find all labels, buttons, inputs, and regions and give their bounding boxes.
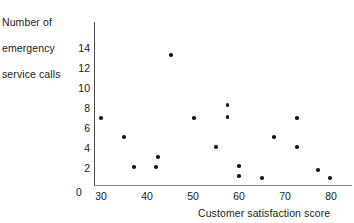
data-point <box>156 155 160 159</box>
data-point <box>328 176 332 180</box>
data-point <box>99 116 103 120</box>
data-point <box>122 135 126 139</box>
data-point <box>154 165 158 169</box>
x-tick-label-60: 60 <box>224 191 254 202</box>
x-tick-label-80: 80 <box>316 191 346 202</box>
x-tick-label-40: 40 <box>132 191 162 202</box>
data-point <box>237 164 241 168</box>
scatter-chart: Number of emergency service calls 246810… <box>0 0 354 223</box>
x-axis-title: Customer satisfaction score <box>198 207 330 220</box>
data-point <box>226 103 230 107</box>
data-point <box>214 145 218 149</box>
data-point <box>295 145 299 149</box>
data-point <box>132 165 136 169</box>
x-tick-label-30: 30 <box>86 191 116 202</box>
x-tick-label-70: 70 <box>270 191 300 202</box>
data-point <box>295 116 299 120</box>
data-point <box>260 176 264 180</box>
x-axis-tick-labels: 304050607080 <box>0 0 354 223</box>
data-point <box>237 174 241 178</box>
data-point <box>226 115 230 119</box>
data-point <box>192 116 196 120</box>
origin-tick-label: 0 <box>76 187 82 198</box>
data-point <box>169 53 173 57</box>
x-tick-label-50: 50 <box>178 191 208 202</box>
data-point <box>316 168 320 172</box>
data-point <box>272 135 276 139</box>
